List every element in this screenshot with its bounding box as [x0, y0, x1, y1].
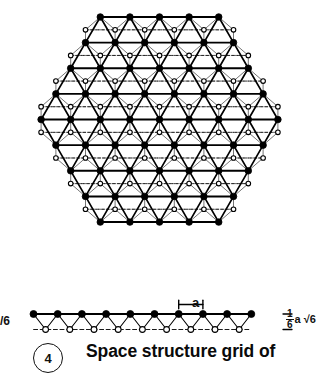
figure-number-badge: 4: [33, 343, 63, 373]
section-bottom-chord-node: [164, 327, 170, 333]
section-top-chord-node: [199, 311, 206, 318]
section-bottom-chord-node: [91, 327, 97, 333]
module-dimension-label: a: [192, 295, 199, 310]
depth-denominator: 6: [286, 320, 294, 330]
section-top-chord-node: [78, 311, 85, 318]
section-bottom-chord-node: [236, 327, 242, 333]
section-bottom-chord-node: [67, 327, 73, 333]
section-bottom-chord-node: [212, 327, 218, 333]
depth-suffix: a √6: [295, 314, 316, 325]
depth-fraction: 1 6: [286, 309, 294, 329]
section-bottom-chord-node: [115, 327, 121, 333]
section-bottom-chord-node: [188, 327, 194, 333]
section-lattice-group: [30, 300, 292, 332]
depth-dimension-label: 1 6 a √6: [286, 309, 316, 329]
section-bottom-chord-node: [43, 327, 49, 333]
section-top-chord-node: [127, 311, 134, 318]
depth-numerator: 1: [286, 309, 294, 320]
figure-caption: Space structure grid of: [86, 341, 275, 362]
section-top-chord-node: [175, 311, 182, 318]
section-top-chord-node: [151, 311, 158, 318]
section-top-chord-node: [54, 311, 61, 318]
left-edge-cut-label: /6: [0, 314, 10, 328]
section-top-chord-node: [224, 311, 231, 318]
section-top-chord-node: [248, 311, 255, 318]
section-top-chord-node: [30, 311, 37, 318]
section-top-chord-node: [103, 311, 110, 318]
section-bottom-chord-node: [140, 327, 146, 333]
